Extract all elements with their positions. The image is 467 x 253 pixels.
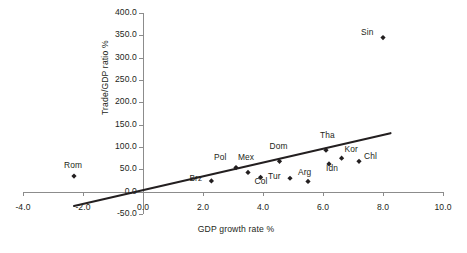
x-tick-label: 0.0 (121, 202, 165, 212)
data-point-label: Tur (268, 171, 281, 181)
data-point-label: Rom (64, 160, 82, 170)
data-point-label: Kor (345, 144, 358, 154)
x-tick-label: 4.0 (241, 202, 285, 212)
y-tick-label: 100.0 (95, 141, 137, 151)
x-tick-label: -2.0 (61, 202, 105, 212)
data-point-label: Pol (214, 152, 226, 162)
data-point-label: Arg (298, 167, 311, 177)
data-point-label: Chl (364, 151, 377, 161)
data-point-marker[interactable] (380, 35, 385, 40)
y-tick-label: 400.0 (95, 7, 137, 17)
x-tick-label: 10.0 (421, 202, 465, 212)
y-tick-label: 50.0 (95, 163, 137, 173)
y-tick-label: 0.0 (95, 186, 137, 196)
scatter-plot-canvas (0, 0, 467, 253)
data-point-label: Col (255, 176, 268, 186)
y-tick-label: 350.0 (95, 29, 137, 39)
x-tick-label: 2.0 (181, 202, 225, 212)
data-point-label: Idn (326, 163, 338, 173)
x-tick-label: -4.0 (1, 202, 45, 212)
data-point-marker[interactable] (71, 173, 76, 178)
y-tick-label: 150.0 (95, 119, 137, 129)
data-point-marker[interactable] (245, 170, 250, 175)
data-point-marker[interactable] (305, 179, 310, 184)
axis-lines (23, 13, 443, 214)
data-point-label: Sin (361, 27, 373, 37)
x-axis-title: GDP growth rate % (198, 224, 274, 234)
data-point-marker[interactable] (339, 156, 344, 161)
y-axis-title: Trade/GDP ratio % (100, 40, 110, 115)
x-tick-label: 6.0 (301, 202, 345, 212)
data-point-label: Mex (238, 152, 254, 162)
data-point-label: Dom (270, 141, 288, 151)
tick-marks (24, 14, 444, 215)
data-point-marker[interactable] (209, 178, 214, 183)
data-point-marker[interactable] (287, 176, 292, 181)
data-point-label: Brz (189, 173, 202, 183)
chart-figure: 400.0350.0300.0250.0200.0150.0100.050.00… (0, 0, 467, 253)
data-point-marker[interactable] (356, 159, 361, 164)
data-point-label: Tha (320, 130, 335, 140)
x-tick-label: 8.0 (361, 202, 405, 212)
